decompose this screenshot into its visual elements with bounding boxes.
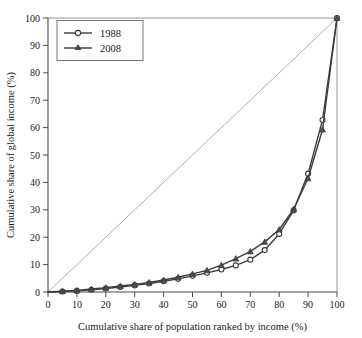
y-axis-tick-labels: 0 10 20 30 40 50 60 70 80 90 100	[25, 13, 40, 298]
x-tick-label: 40	[159, 299, 169, 310]
x-tick-label: 10	[72, 299, 82, 310]
legend-box	[57, 21, 143, 61]
legend-label: 1988	[100, 28, 121, 39]
open-circle-icon	[233, 263, 238, 268]
x-axis-title: Cumulative share of population ranked by…	[78, 321, 307, 333]
x-tick-label: 100	[330, 299, 345, 310]
x-tick-label: 20	[101, 299, 111, 310]
lorenz-curve-chart: 0 10 20 30 40 50 60 70 80 90 100	[0, 0, 362, 338]
y-tick-label: 30	[30, 204, 40, 215]
x-tick-label: 30	[130, 299, 140, 310]
chart-legend: 1988 2008	[57, 21, 143, 61]
y-axis-title: Cumulative share of global income (%)	[5, 72, 17, 238]
y-tick-label: 60	[30, 122, 40, 133]
chart-canvas: 0 10 20 30 40 50 60 70 80 90 100	[0, 0, 362, 338]
open-circle-icon	[248, 257, 253, 262]
y-tick-label: 40	[30, 177, 40, 188]
x-tick-label: 60	[216, 299, 226, 310]
x-tick-label: 0	[46, 299, 51, 310]
y-tick-label: 10	[30, 259, 40, 270]
x-tick-label: 90	[303, 299, 313, 310]
open-circle-icon	[262, 248, 267, 253]
open-circle-icon	[75, 30, 80, 35]
y-tick-label: 0	[35, 287, 40, 298]
x-tick-label: 70	[245, 299, 255, 310]
y-tick-label: 70	[30, 95, 40, 106]
y-tick-label: 20	[30, 232, 40, 243]
x-tick-label: 50	[188, 299, 198, 310]
x-axis-tick-labels: 0 10 20 30 40 50 60 70 80 90 100	[46, 299, 345, 310]
y-tick-label: 100	[25, 13, 40, 24]
x-tick-label: 80	[274, 299, 284, 310]
y-tick-label: 80	[30, 67, 40, 78]
filled-triangle-icon	[233, 256, 239, 261]
y-axis-ticks	[43, 18, 48, 292]
y-tick-label: 90	[30, 40, 40, 51]
legend-label: 2008	[100, 43, 121, 54]
y-tick-label: 50	[30, 150, 40, 161]
